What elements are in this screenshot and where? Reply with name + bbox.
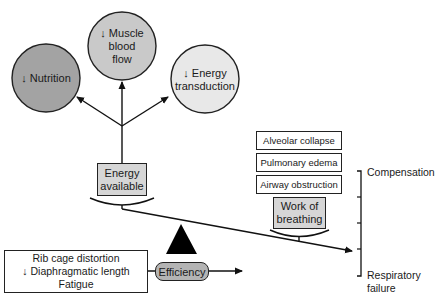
muscle-line-2: blood	[109, 40, 136, 53]
efficiency-factor-1: Rib cage distortion	[33, 252, 120, 265]
nutrition-label: ↓ Nutrition	[12, 68, 80, 88]
efficiency-factor-3: Fatigue	[58, 278, 93, 291]
efficiency-factors-box: Rib cage distortion ↓ Diaphragmatic leng…	[4, 250, 148, 293]
wob-line-1: Work of	[281, 200, 319, 213]
work-of-breathing-box: Work of breathing	[273, 197, 326, 229]
transduction-line-2: transduction	[175, 80, 235, 93]
branch-to-nutrition	[77, 97, 122, 126]
airway-obstruction-box: Airway obstruction	[256, 175, 342, 194]
fulcrum-triangle	[166, 224, 197, 254]
right-pan	[270, 230, 329, 237]
efficiency-pill: Efficiency	[155, 262, 209, 281]
energy-transduction-label: ↓ Energy transduction	[170, 66, 240, 94]
muscle-line-1: ↓ Muscle	[100, 27, 143, 40]
muscle-blood-flow-label: ↓ Muscle blood flow	[88, 26, 156, 66]
energy-available-box: Energy available	[97, 163, 147, 196]
efficiency-factor-2: ↓ Diaphragmatic length	[22, 265, 129, 278]
pulmonary-edema-box: Pulmonary edema	[256, 153, 342, 172]
respiratory-failure-line-2: failure	[367, 282, 421, 295]
nutrition-text: ↓ Nutrition	[21, 72, 71, 85]
compensation-text: Compensation	[367, 166, 435, 178]
alveolar-collapse-text: Alveolar collapse	[263, 135, 335, 146]
energy-available-line-1: Energy	[105, 167, 140, 180]
pulmonary-edema-text: Pulmonary edema	[260, 157, 337, 168]
airway-obstruction-text: Airway obstruction	[260, 179, 338, 190]
transduction-line-1: ↓ Energy	[183, 67, 226, 80]
muscle-line-3: flow	[112, 53, 132, 66]
left-pan	[90, 198, 154, 205]
wob-line-2: breathing	[277, 213, 323, 226]
efficiency-text: Efficiency	[159, 266, 206, 278]
respiratory-failure-line-1: Respiratory	[367, 269, 421, 282]
compensation-label: Compensation	[367, 166, 435, 179]
alveolar-collapse-box: Alveolar collapse	[256, 131, 342, 150]
energy-available-line-2: available	[100, 180, 143, 193]
respiratory-failure-label: Respiratory failure	[367, 269, 421, 295]
branch-to-transduction	[122, 97, 168, 126]
